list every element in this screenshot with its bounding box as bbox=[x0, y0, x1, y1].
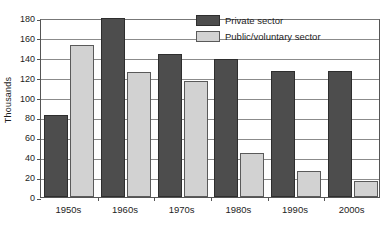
x-axis-tick-label: 2000s bbox=[339, 204, 365, 215]
y-axis-tick-label: 60 bbox=[25, 133, 35, 143]
bar bbox=[44, 115, 68, 197]
y-axis-tick-label: 0 bbox=[30, 193, 35, 203]
x-axis-tick-label: 1950s bbox=[55, 204, 81, 215]
y-axis-tick-label: 40 bbox=[25, 153, 35, 163]
bar-group bbox=[154, 20, 211, 197]
bar bbox=[271, 71, 295, 197]
bar bbox=[297, 171, 321, 197]
y-axis-tick-label: 20 bbox=[25, 173, 35, 183]
y-axis-tick-label: 100 bbox=[20, 94, 35, 104]
bar bbox=[240, 153, 264, 197]
bar bbox=[127, 72, 151, 197]
x-axis-tick-label: 1960s bbox=[112, 204, 138, 215]
bar bbox=[328, 71, 352, 197]
bar-group bbox=[324, 20, 381, 197]
x-axis-tick-label: 1990s bbox=[282, 204, 308, 215]
legend-swatch-private-sector bbox=[196, 15, 220, 26]
bar-chart: Thousands 020406080100120140160180 1950s… bbox=[0, 0, 388, 230]
legend-label-public-voluntary-sector: Public/voluntary sector bbox=[225, 31, 321, 42]
plot-area bbox=[40, 19, 380, 198]
x-axis-tick-label: 1980s bbox=[225, 204, 251, 215]
y-axis-tick-label: 180 bbox=[20, 14, 35, 24]
bar-group bbox=[211, 20, 268, 197]
x-axis-tick-label: 1970s bbox=[169, 204, 195, 215]
bar bbox=[184, 81, 208, 197]
bar bbox=[354, 181, 378, 197]
y-axis-tick-labels: 020406080100120140160180 bbox=[16, 19, 38, 198]
y-axis-tick-label: 120 bbox=[20, 74, 35, 84]
y-axis-title-text: Thousands bbox=[3, 77, 13, 123]
y-axis-tick-label: 140 bbox=[20, 54, 35, 64]
legend-item-public-voluntary-sector: Public/voluntary sector bbox=[196, 31, 321, 42]
legend-label-private-sector: Private sector bbox=[225, 15, 283, 26]
y-axis-tick-label: 160 bbox=[20, 34, 35, 44]
bar-group bbox=[268, 20, 325, 197]
chart-legend: Private sector Public/voluntary sector bbox=[196, 15, 321, 42]
bar bbox=[158, 54, 182, 197]
bar-group bbox=[98, 20, 155, 197]
x-axis-tick-labels: 1950s1960s1970s1980s1990s2000s bbox=[40, 201, 380, 221]
bar bbox=[214, 59, 238, 197]
legend-swatch-public-voluntary-sector bbox=[196, 31, 220, 42]
y-axis-tick-label: 80 bbox=[25, 113, 35, 123]
bar bbox=[70, 45, 94, 197]
y-axis-tick bbox=[37, 199, 41, 200]
y-axis-title: Thousands bbox=[0, 0, 16, 200]
legend-item-private-sector: Private sector bbox=[196, 15, 321, 26]
bar-group bbox=[41, 20, 98, 197]
bar bbox=[101, 18, 125, 197]
plot-inner bbox=[41, 20, 379, 197]
